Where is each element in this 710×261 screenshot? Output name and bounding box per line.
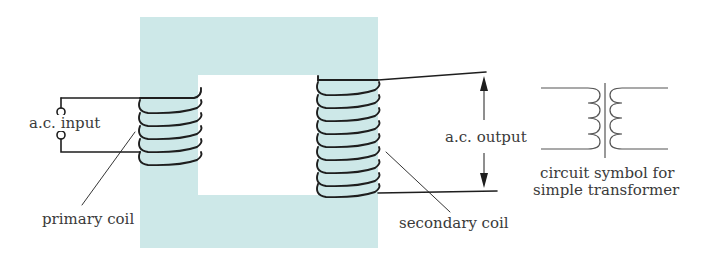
secondary-leader-line xyxy=(386,152,450,212)
transformer-circuit-symbol xyxy=(541,83,668,158)
transformer-diagram: a.c. input primary coil a.c. output seco… xyxy=(0,0,710,261)
input-label: a.c. input xyxy=(29,114,100,132)
symbol-caption-line1: circuit symbol for xyxy=(540,164,675,182)
secondary-coil-label: secondary coil xyxy=(399,214,509,232)
symbol-caption-line2: simple transformer xyxy=(533,181,680,199)
primary-coil-label: primary coil xyxy=(42,210,134,228)
output-label: a.c. output xyxy=(445,128,527,146)
iron-core xyxy=(140,17,378,248)
primary-leader-line xyxy=(82,132,135,205)
